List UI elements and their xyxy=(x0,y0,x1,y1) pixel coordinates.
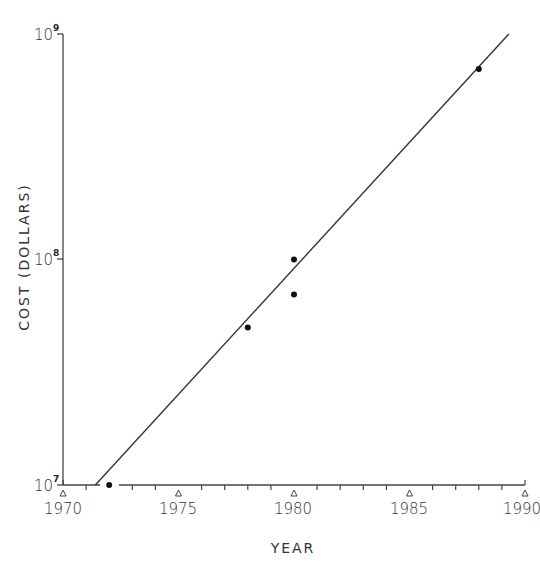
x-tick-label-1980: 1980 xyxy=(274,500,312,518)
x-major-tick-marker xyxy=(407,490,413,496)
data-points xyxy=(106,66,482,488)
cost-vs-year-chart: 109 108 107 COST (DOLLARS) 1970 1975 198… xyxy=(0,0,540,567)
data-point xyxy=(291,257,297,263)
x-tick-label-1975: 1975 xyxy=(159,500,197,518)
trend-line xyxy=(95,34,508,485)
data-point xyxy=(106,482,112,488)
x-tick-label-1970: 1970 xyxy=(44,500,82,518)
y-axis-title: COST (DOLLARS) xyxy=(16,183,32,331)
x-major-tick-marker xyxy=(176,490,182,496)
y-tick-label-1e7: 107 xyxy=(34,474,59,495)
x-tick-label-1990: 1990 xyxy=(503,500,540,518)
x-axis: 1970 1975 1980 1985 1990 YEAR xyxy=(44,480,540,556)
data-point xyxy=(291,291,297,297)
x-axis-title: YEAR xyxy=(270,540,316,556)
data-point xyxy=(245,324,251,330)
y-tick-label-1e8: 108 xyxy=(34,248,59,269)
x-tick-label-1985: 1985 xyxy=(390,500,428,518)
x-major-tick-marker xyxy=(60,490,66,496)
x-major-tick-marker xyxy=(291,490,297,496)
y-axis: 109 108 107 COST (DOLLARS) xyxy=(16,23,63,495)
y-tick-label-1e9: 109 xyxy=(34,23,59,44)
data-point xyxy=(476,66,482,72)
x-major-tick-marker xyxy=(522,490,528,496)
